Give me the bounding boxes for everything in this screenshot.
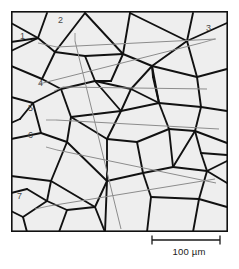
intercept-label-3: 3: [206, 24, 211, 33]
grain-boundary: [152, 66, 153, 77]
grain-structure-micrograph: [11, 11, 228, 232]
figure-root: 1234567 100 µm: [0, 0, 239, 269]
scale-bar-rule: [152, 236, 220, 245]
intercept-label-2: 2: [58, 16, 63, 25]
intercept-label-5: 5: [28, 104, 33, 113]
intercept-label-7: 7: [17, 192, 22, 201]
intercept-label-1: 1: [20, 32, 25, 41]
intercept-label-4: 4: [38, 79, 43, 88]
scale-bar-label: 100 µm: [150, 246, 228, 257]
micrograph-canvas: [11, 11, 228, 232]
intercept-label-6: 6: [28, 131, 33, 140]
scale-bar: 100 µm: [150, 234, 232, 264]
